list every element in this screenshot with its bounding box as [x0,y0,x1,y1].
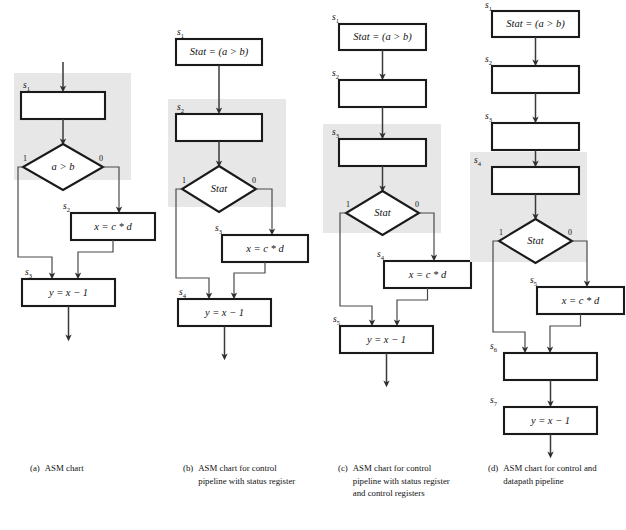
chart-c-state-s5-label: s5 [333,314,340,326]
figure-canvas: s1 a > b 1 0 s2 x = c * d [0,0,626,530]
chart-a-state-s2-text: x = c * d [93,221,132,232]
chart-c-state-s2-box[interactable] [339,80,426,107]
chart-b-decision-text: Stat [211,183,228,194]
chart-d-state-s5-label: s5 [530,275,537,287]
caption-b: (b) ASM chart for control pipeline with … [183,462,306,487]
chart-c-decision-text: Stat [374,207,391,218]
chart-b-state-s3-text: x = c * d [245,243,284,254]
caption-a-tag: (a) [30,462,40,475]
chart-d-state-s7-text: y = x − 1 [530,415,570,426]
chart-d-state-s7-label: s7 [490,395,498,407]
chart-b-state-s2-box[interactable] [176,114,262,141]
chart-a-branch-true-label: 1 [23,154,27,163]
chart-a-state-s2-label: s2 [63,201,70,213]
chart-d-state-s1-text: Stat = (a > b) [506,18,565,30]
caption-a-text: ASM chart [45,462,84,475]
chart-c-state-s2-label: s2 [332,68,339,80]
chart-d-state-s3-box[interactable] [492,123,579,150]
chart-a-branch-false-label: 0 [99,154,103,163]
chart-d-decision-text: Stat [527,235,544,246]
asm-chart-figure: s1 a > b 1 0 s2 x = c * d [0,0,626,530]
chart-a-state-s3-text: y = x − 1 [48,287,88,298]
chart-b-state-s4-label: s4 [179,287,187,299]
chart-d-state-s5-text: x = c * d [561,295,600,306]
chart-a-decision-text: a > b [52,161,75,172]
chart-d-state-s1-label: s1 [485,0,492,12]
chart-c-branch-true-label: 1 [346,200,350,209]
caption-b-text: ASM chart for control pipeline with stat… [198,462,306,487]
chart-a-path-true [18,167,52,276]
caption-d-text: ASM chart for control and datapath pipel… [503,462,611,487]
caption-c: (c) ASM chart for control pipeline with … [338,462,461,500]
chart-a-state-s3-label: s3 [25,267,32,279]
chart-d-state-s6-label: s6 [490,341,498,353]
chart-c-state-s3-box[interactable] [339,139,426,166]
chart-c-state-s5-text: y = x − 1 [366,334,406,345]
chart-c-state-s4-text: x = c * d [408,269,447,280]
caption-c-tag: (c) [338,462,348,475]
chart-d-state-s2-box[interactable] [492,66,579,93]
caption-c-text: ASM chart for control pipeline with stat… [353,462,461,500]
chart-b-state-s3-label: s3 [215,223,222,235]
chart-d-state-s3-label: s3 [485,111,492,123]
chart-b-state-s1-text: Stat = (a > b) [190,46,249,58]
chart-d-state-s6-box[interactable] [504,353,597,380]
caption-b-tag: (b) [183,462,193,475]
chart-b-state-s1-label: s1 [177,27,184,39]
caption-d-tag: (d) [488,462,498,475]
chart-a-arrow-s2-to-s3 [78,240,113,276]
chart-c-state-s4-label: s4 [377,249,385,261]
chart-d-state-s4-box[interactable] [492,167,579,194]
chart-d-arrow-s5-to-s6 [550,314,581,350]
caption-a: (a) ASM chart [30,462,84,475]
chart-b-state-s4-text: y = x − 1 [204,307,244,318]
chart-c-branch-false-label: 0 [415,200,419,209]
chart-b-arrow-s3-to-s4 [234,262,265,296]
chart-c-arrow-s4-to-s5 [397,288,428,323]
chart-d-state-s2-label: s2 [485,54,492,66]
chart-b-branch-false-label: 0 [252,176,256,185]
figure-captions: (a) ASM chart (b) ASM chart for control … [0,462,626,530]
chart-c: s1 Stat = (a > b) s2 s3 Stat [323,12,471,384]
chart-b-branch-true-label: 1 [182,176,186,185]
caption-d: (d) ASM chart for control and datapath p… [488,462,611,487]
chart-c-state-s1-label: s1 [332,12,339,24]
chart-a-state-s1-box[interactable] [21,92,105,119]
chart-d-branch-false-label: 0 [568,228,572,237]
chart-d: s1 Stat = (a > b) s2 s3 [470,0,624,455]
chart-b: s1 Stat = (a > b) s2 Stat 1 0 s3 [168,27,308,357]
chart-a: s1 a > b 1 0 s2 x = c * d [14,62,155,338]
chart-d-branch-true-label: 1 [499,228,503,237]
chart-c-state-s1-text: Stat = (a > b) [353,31,412,43]
